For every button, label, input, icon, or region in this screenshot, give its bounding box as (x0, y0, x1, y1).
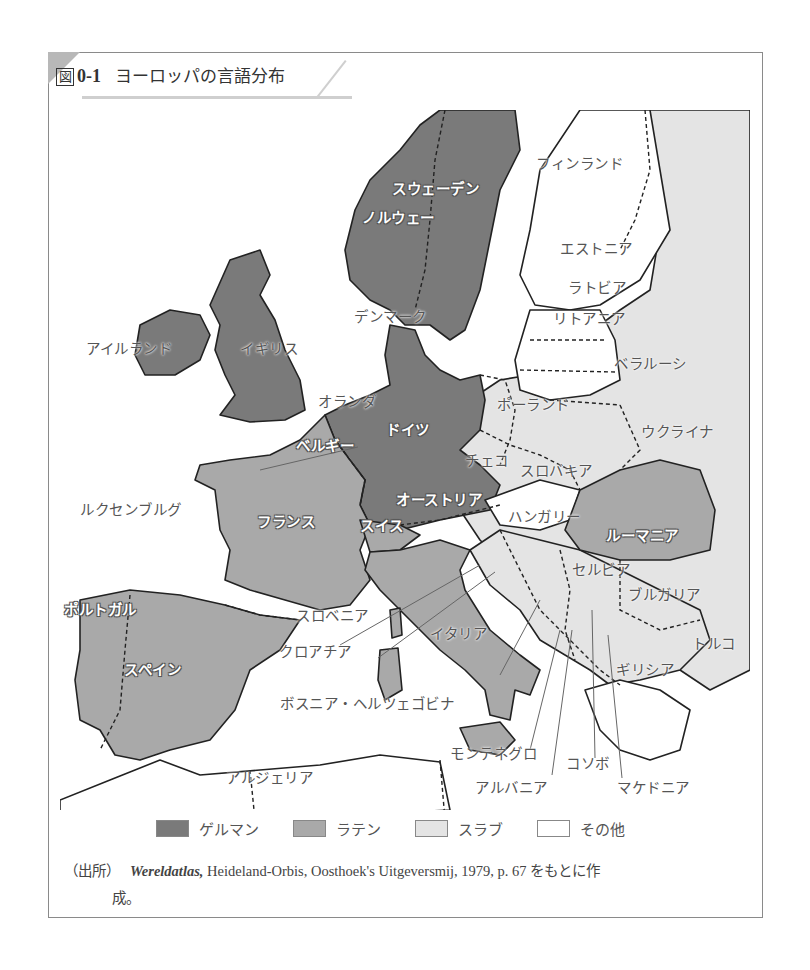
figure-title-text: ヨーロッパの言語分布 (115, 66, 285, 86)
label-montenegro: モンテネグロ (450, 742, 537, 763)
label-algeria: アルジェリア (226, 766, 313, 787)
region-greece (585, 680, 690, 760)
legend-item-other: その他 (537, 818, 625, 839)
label-czech: チェコ (465, 449, 509, 470)
label-belgium: ベルギー (296, 434, 354, 455)
legend-swatch-other (537, 820, 570, 837)
label-denmark: デンマーク (354, 305, 427, 326)
label-norway: ノルウェー (362, 206, 435, 227)
label-slovenia: スロベニア (296, 604, 369, 625)
legend-item-slavic: スラブ (415, 818, 503, 839)
label-france: フランス (257, 510, 315, 531)
label-germany: ドイツ (386, 418, 430, 439)
figure-title: 図0-1ヨーロッパの言語分布 (56, 62, 285, 87)
label-ukraine: ウクライナ (641, 420, 714, 441)
legend: ゲルマン ラテン スラブ その他 (156, 818, 659, 839)
label-portugal: ポルトガル (64, 598, 137, 619)
label-greece: ギリシア (616, 658, 674, 679)
label-bulgaria: ブルガリア (628, 583, 701, 604)
label-slovakia: スロバキア (520, 459, 593, 480)
legend-item-germanic: ゲルマン (156, 818, 259, 839)
label-estonia: エストニア (560, 237, 633, 258)
label-sweden: スウェーデン (392, 177, 479, 198)
label-luxembourg: ルクセンブルグ (80, 498, 182, 519)
leader-montenegro (530, 630, 560, 750)
legend-label-germanic: ゲルマン (199, 818, 259, 839)
source-tag: （出所） (64, 863, 120, 879)
label-croatia: クロアチア (279, 640, 352, 661)
label-finland: フィンランド (536, 152, 623, 173)
label-serbia: セルビア (572, 558, 630, 579)
label-belarus: ベラルーシ (614, 352, 687, 373)
figure-prefix: 図 (56, 68, 74, 86)
source-title: Wereldatlas, (130, 863, 203, 879)
label-switzerland: スイス (360, 514, 404, 535)
label-macedonia: マケドニア (617, 776, 690, 797)
label-ireland: アイルランド (86, 337, 172, 358)
source-continuation: 成。 (64, 885, 754, 912)
legend-label-latin: ラテン (336, 818, 381, 839)
legend-item-latin: ラテン (293, 818, 381, 839)
label-bosnia: ボスニア・ヘルツェゴビナ (280, 692, 454, 713)
region-great-britain (210, 250, 305, 422)
legend-label-other: その他 (580, 818, 625, 839)
label-italy: イタリア (430, 622, 487, 643)
source-note: （出所）Wereldatlas, Heideland-Orbis, Oostho… (64, 858, 754, 912)
legend-swatch-germanic (156, 820, 189, 837)
label-romania: ルーマニア (606, 524, 679, 545)
label-netherlands: オランダ (318, 390, 376, 411)
label-uk: イギリス (240, 337, 298, 358)
label-poland: ポーランド (497, 393, 570, 414)
label-austria: オーストリア (396, 488, 482, 509)
legend-swatch-latin (293, 820, 326, 837)
label-spain: スペイン (124, 658, 181, 679)
source-details: Heideland-Orbis, Oosthoek's Uitgeversmij… (203, 863, 600, 879)
title-underline-decoration (82, 96, 352, 99)
label-lithuania: リトアニア (553, 307, 626, 328)
legend-swatch-slavic (415, 820, 448, 837)
label-kosovo: コソボ (566, 752, 610, 773)
legend-label-slavic: スラブ (458, 818, 503, 839)
label-albania: アルバニア (475, 776, 548, 797)
label-turkey: トルコ (692, 632, 736, 653)
label-latvia: ラトビア (568, 276, 626, 297)
figure-number: 0-1 (77, 66, 101, 86)
label-hungary: ハンガリー (508, 505, 581, 526)
